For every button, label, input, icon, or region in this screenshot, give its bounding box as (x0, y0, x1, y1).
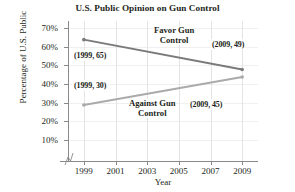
x-tick-label-2001: 2001 (107, 166, 125, 176)
x-tick-2001 (116, 161, 117, 165)
x-tick-2009 (242, 161, 243, 165)
x-axis-title: Year (68, 177, 258, 187)
series-annotation-favor-line1: Favor Gun (154, 25, 194, 35)
point-label-2009-45: (2009, 45) (188, 99, 224, 110)
x-tick-2007 (211, 161, 212, 165)
y-axis-title: Percentage of U.S. Public (18, 0, 28, 122)
y-tick-label-60: 60% (42, 42, 59, 52)
axis-break-icon (62, 152, 74, 166)
x-tick-1999 (84, 161, 85, 165)
y-tick-label-70: 70% (42, 23, 59, 33)
series-annotation-against: Against Gun Control (129, 99, 176, 118)
point-label-2009-49: (2009, 49) (210, 39, 246, 50)
chart-title: U.S. Public Opinion on Gun Control (0, 3, 295, 13)
series-annotation-against-line2: Control (138, 108, 167, 118)
x-tick-2003 (147, 161, 148, 165)
x-tick-label-1999: 1999 (75, 166, 93, 176)
x-tick-2005 (179, 161, 180, 165)
y-tick-label-20: 20% (42, 116, 59, 126)
data-point-0-1 (240, 68, 244, 72)
data-point-0-0 (82, 38, 86, 42)
x-tick-label-2003: 2003 (138, 166, 156, 176)
data-point-1-0 (82, 103, 86, 107)
x-tick-label-2005: 2005 (170, 166, 188, 176)
series-annotation-favor-line2: Control (160, 35, 189, 45)
point-label-1999-65: (1999, 65) (72, 50, 108, 61)
x-tick-label-2007: 2007 (202, 166, 220, 176)
y-tick-label-30: 30% (42, 98, 59, 108)
series-annotation-favor: Favor Gun Control (154, 26, 194, 45)
point-label-1999-30: (1999, 30) (72, 80, 108, 91)
data-point-1-1 (240, 75, 244, 79)
x-tick-label-2009: 2009 (233, 166, 251, 176)
series-annotation-against-line1: Against Gun (129, 98, 176, 108)
chart-figure: U.S. Public Opinion on Gun Control Perce… (0, 0, 295, 192)
plot-area: 70% 60% 50% 40% 30% 20% 10% 1999 2001 20… (68, 21, 258, 161)
y-tick-label-50: 50% (42, 60, 59, 70)
x-axis-line (60, 161, 258, 162)
y-tick-label-40: 40% (42, 79, 59, 89)
y-tick-label-10: 10% (42, 135, 59, 145)
